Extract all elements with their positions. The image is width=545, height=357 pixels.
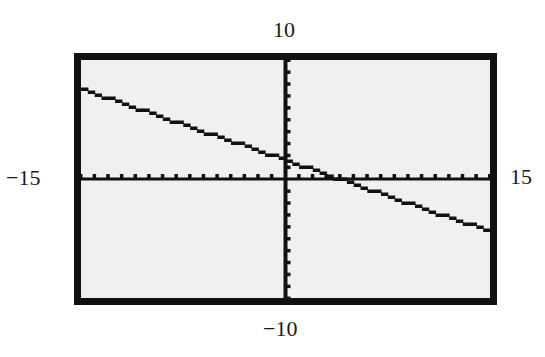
y-max-label: 10 [273,19,295,41]
calculator-graph-screen [74,53,497,305]
x-max-label: 15 [510,166,532,188]
x-min-label: −15 [6,167,40,189]
y-min-label: −10 [263,318,297,340]
